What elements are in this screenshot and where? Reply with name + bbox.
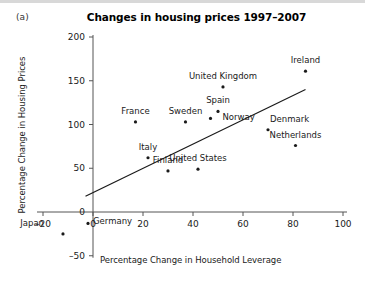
data-point-label: Japan bbox=[19, 218, 44, 228]
y-tick-label: 0 bbox=[79, 207, 85, 217]
figure-panel: (a) Changes in housing prices 1997–2007 … bbox=[0, 0, 365, 284]
data-point bbox=[196, 168, 199, 171]
y-tick-label: 100 bbox=[68, 120, 85, 130]
data-points: JapanGermanyFranceItalyFinlandSwedenUnit… bbox=[19, 55, 322, 235]
x-tick-label: 20 bbox=[137, 219, 149, 229]
data-point bbox=[304, 70, 307, 73]
data-point bbox=[61, 232, 64, 235]
x-tick-label: 60 bbox=[237, 219, 249, 229]
x-tick-label: 100 bbox=[334, 219, 351, 229]
data-point-label: United States bbox=[169, 153, 227, 163]
data-point bbox=[184, 120, 187, 123]
data-point bbox=[146, 156, 149, 159]
data-point-label: Netherlands bbox=[270, 130, 322, 140]
scatter-plot: –20020406080100–50050100150200 JapanGerm… bbox=[0, 0, 365, 284]
data-point-label: Italy bbox=[139, 142, 157, 152]
data-point bbox=[86, 222, 89, 225]
y-tick-label: –50 bbox=[69, 251, 85, 261]
data-point-label: Germany bbox=[93, 216, 132, 226]
axes: –20020406080100–50050100150200 bbox=[35, 32, 352, 261]
data-point-label: Sweden bbox=[169, 106, 203, 116]
y-tick-label: 50 bbox=[74, 163, 86, 173]
data-point-label: Norway bbox=[223, 112, 255, 122]
data-point bbox=[294, 144, 297, 147]
x-tick-label: 40 bbox=[187, 219, 199, 229]
data-point-label: United Kingdom bbox=[189, 71, 257, 81]
data-point bbox=[166, 169, 169, 172]
x-tick-label: 80 bbox=[287, 219, 299, 229]
data-point bbox=[134, 120, 137, 123]
data-point bbox=[209, 117, 212, 120]
data-point bbox=[221, 85, 224, 88]
data-point-label: Spain bbox=[206, 95, 230, 105]
data-point-label: France bbox=[121, 106, 149, 116]
data-point bbox=[216, 110, 219, 113]
data-point-label: Denmark bbox=[270, 114, 309, 124]
data-point-label: Ireland bbox=[291, 55, 320, 65]
y-tick-label: 150 bbox=[68, 76, 85, 86]
y-tick-label: 200 bbox=[68, 32, 85, 42]
